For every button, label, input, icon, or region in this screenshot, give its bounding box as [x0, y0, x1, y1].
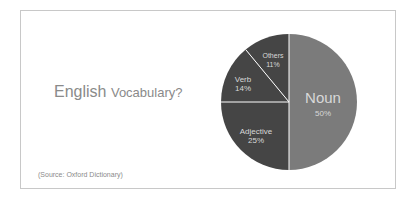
label-noun-pct: 50%: [315, 109, 331, 118]
pie-chart: Noun 50% Adjective 25% Verb 14% Others 1…: [0, 0, 417, 202]
label-adjective-pct: 25%: [248, 136, 264, 145]
label-noun-name: Noun: [305, 89, 341, 106]
label-adjective-name: Adjective: [240, 127, 273, 136]
label-others-pct: 11%: [266, 61, 280, 68]
label-verb-pct: 14%: [235, 84, 251, 93]
label-others-name: Others: [262, 52, 284, 59]
label-verb-name: Verb: [235, 75, 252, 84]
